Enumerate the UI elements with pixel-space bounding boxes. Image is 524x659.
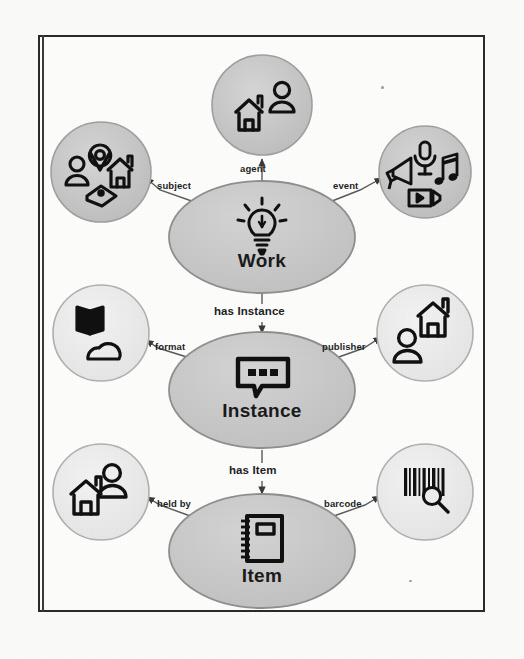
node-item[interactable] — [169, 494, 355, 608]
edge-label-has-instance: has Instance — [214, 305, 285, 317]
edge-label-barcode: barcode — [324, 498, 362, 509]
open-book-icon — [77, 307, 103, 334]
edge-label-held-by: held by — [157, 498, 191, 509]
scan-speck — [409, 580, 412, 582]
satellite-format[interactable] — [53, 285, 149, 381]
satellite-event[interactable] — [379, 126, 471, 218]
satellite-subject[interactable] — [51, 122, 151, 222]
edge-label-publisher: publisher — [322, 341, 366, 352]
edge-label-format: format — [155, 341, 185, 352]
diagram-canvas: Work Instance Item agent subject event h… — [0, 0, 524, 659]
bibframe-diagram — [0, 0, 524, 659]
edge-label-agent: agent — [240, 163, 266, 174]
satellite-barcode[interactable] — [377, 444, 473, 540]
satellite-publisher[interactable] — [377, 285, 473, 381]
edge-label-subject: subject — [157, 180, 191, 191]
scan-speck — [381, 86, 384, 89]
edge-label-has-item: has Item — [229, 464, 276, 476]
edge-label-event: event — [333, 180, 358, 191]
satellite-heldby[interactable] — [53, 444, 149, 540]
node-work[interactable] — [169, 181, 355, 293]
satellite-agent[interactable] — [212, 55, 312, 155]
